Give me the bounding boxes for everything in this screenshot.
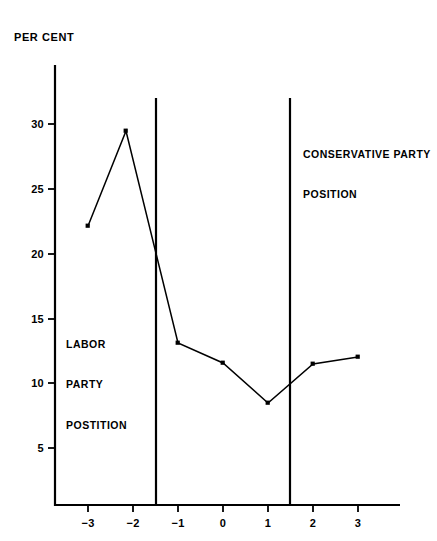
data-point <box>356 355 360 359</box>
y-tick-label-15: 15 <box>18 312 44 326</box>
x-tick-label-minus-2: −2 <box>118 516 148 530</box>
labor-annotation-line-2: PARTY <box>66 378 127 391</box>
y-tick-label-5: 5 <box>18 441 44 455</box>
chart-plot-area <box>0 0 437 541</box>
x-tick-label-minus-3: −3 <box>73 516 103 530</box>
x-tick-label-3: 3 <box>343 516 373 530</box>
conservative-party-position-annotation: CONSERVATIVE PARTY POSITION <box>303 121 431 229</box>
labor-annotation-line-1: LABOR <box>66 338 127 351</box>
y-tick-label-20: 20 <box>18 247 44 261</box>
y-tick-label-30: 30 <box>18 117 44 131</box>
conservative-annotation-line-2: POSITION <box>303 188 431 201</box>
y-tick-label-25: 25 <box>18 182 44 196</box>
data-point <box>124 129 128 133</box>
x-tick-label-minus-1: −1 <box>163 516 193 530</box>
y-tick-label-10: 10 <box>18 376 44 390</box>
conservative-annotation-line-1: CONSERVATIVE PARTY <box>303 148 431 161</box>
x-tick-label-2: 2 <box>298 516 328 530</box>
data-point <box>176 341 180 345</box>
x-tick-label-1: 1 <box>253 516 283 530</box>
labor-party-position-annotation: LABOR PARTY POSTITION <box>66 311 127 459</box>
data-point <box>266 401 270 405</box>
labor-annotation-line-3: POSTITION <box>66 419 127 432</box>
data-point <box>311 362 315 366</box>
x-tick-label-0: 0 <box>208 516 238 530</box>
data-point <box>221 361 225 365</box>
data-point <box>86 224 90 228</box>
y-axis-title: PER CENT <box>14 30 74 44</box>
chart-figure: PER CENT 30 25 20 15 10 5 −3 −2 −1 0 1 2… <box>0 0 437 541</box>
